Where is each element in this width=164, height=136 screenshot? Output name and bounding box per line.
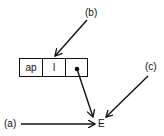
- label-b: (b): [85, 8, 97, 18]
- cell-l: l: [42, 58, 66, 77]
- target-e: E: [98, 119, 105, 129]
- label-c: (c): [145, 62, 157, 72]
- arrow-b-to-cell: [55, 20, 87, 56]
- cell-ap: ap: [19, 58, 43, 77]
- label-a: (a): [4, 119, 16, 129]
- arrow-c-to-e: [106, 76, 148, 117]
- cell-pointer: [65, 58, 88, 77]
